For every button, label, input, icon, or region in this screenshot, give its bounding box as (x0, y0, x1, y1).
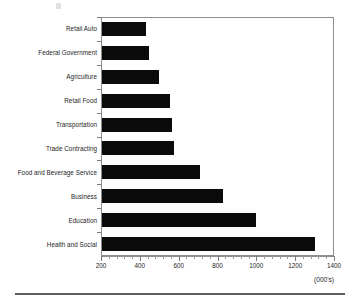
x-axis-minor-tick (148, 256, 149, 259)
bar (102, 213, 256, 227)
x-axis-minor-tick (225, 256, 226, 259)
category-label: Trade Contracting (0, 145, 97, 152)
x-axis-minor-tick (194, 256, 195, 259)
bar (102, 70, 159, 84)
x-axis-minor-tick (249, 256, 250, 259)
category-label: Transportation (0, 121, 97, 128)
x-axis-minor-tick (117, 256, 118, 259)
bar (102, 94, 170, 108)
x-axis-tick-label: 800 (203, 262, 233, 270)
x-axis-minor-tick (264, 256, 265, 259)
x-axis-minor-tick (163, 256, 164, 259)
y-axis-tick (97, 113, 102, 114)
bar-chart-figure: Retail AutoFederal GovernmentAgriculture… (0, 0, 358, 303)
y-axis-tick (97, 232, 102, 233)
x-axis-tick-label: 600 (164, 262, 194, 270)
x-axis-minor-tick (241, 256, 242, 259)
y-axis-tick (97, 65, 102, 66)
y-axis-tick (97, 17, 102, 18)
x-axis-minor-tick (171, 256, 172, 259)
category-label: Business (0, 193, 97, 200)
y-axis-tick (97, 184, 102, 185)
scan-artifact-mark (56, 3, 61, 9)
category-label: Food and Beverage Service (0, 169, 97, 176)
bar (102, 46, 149, 60)
x-axis-minor-tick (202, 256, 203, 259)
y-axis-tick (97, 208, 102, 209)
x-axis-unit-label: (000's) (314, 275, 334, 284)
bar (102, 141, 174, 155)
bar-rows-container: Retail AutoFederal GovernmentAgriculture… (0, 17, 358, 256)
bar (102, 165, 200, 179)
y-axis-tick (97, 137, 102, 138)
x-axis-major-tick (334, 256, 335, 261)
x-axis-minor-tick (280, 256, 281, 259)
x-axis-major-tick (256, 256, 257, 261)
bar (102, 118, 172, 132)
x-axis-minor-tick (109, 256, 110, 259)
bar (102, 22, 146, 36)
x-axis-tick-label: 200 (86, 262, 116, 270)
category-label: Education (0, 217, 97, 224)
x-axis-minor-tick (210, 256, 211, 259)
x-axis-major-tick (295, 256, 296, 261)
x-axis-minor-tick (311, 256, 312, 259)
category-label: Health and Social (0, 241, 97, 248)
category-label: Federal Government (0, 49, 97, 56)
y-axis-tick (97, 41, 102, 42)
category-label: Retail Food (0, 97, 97, 104)
x-axis-tick-label: 400 (125, 262, 155, 270)
x-axis-minor-tick (124, 256, 125, 259)
category-label: Agriculture (0, 73, 97, 80)
x-axis-minor-tick (303, 256, 304, 259)
category-label: Retail Auto (0, 25, 97, 32)
x-axis-tick-label: 1400 (319, 262, 349, 270)
bar (102, 189, 223, 203)
x-axis-minor-tick (326, 256, 327, 259)
x-axis-tick-label: 1000 (241, 262, 271, 270)
bar (102, 237, 315, 251)
bottom-horizontal-rule (15, 293, 345, 295)
x-axis-tick-label: 1200 (280, 262, 310, 270)
x-axis-major-tick (179, 256, 180, 261)
x-axis-major-tick (101, 256, 102, 261)
x-axis-major-tick (140, 256, 141, 261)
x-axis-minor-tick (132, 256, 133, 259)
x-axis-minor-tick (318, 256, 319, 259)
x-axis-minor-tick (186, 256, 187, 259)
x-axis-minor-tick (155, 256, 156, 259)
x-axis-major-tick (218, 256, 219, 261)
y-axis-tick (97, 89, 102, 90)
x-axis-minor-tick (272, 256, 273, 259)
y-axis-tick (97, 160, 102, 161)
x-axis-minor-tick (287, 256, 288, 259)
x-axis-minor-tick (233, 256, 234, 259)
